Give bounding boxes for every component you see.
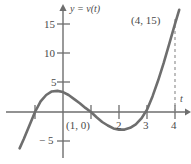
x-axis-label: t [180,94,183,104]
y-tick-label-10: 10 [44,48,55,59]
x-tick-label-2: 2 [116,120,122,131]
y-tick-label-15: 15 [44,19,55,30]
point-label-1-0: (1, 0) [66,120,90,131]
y-tick-label-5: 5 [51,77,57,88]
x-tick-label-3: 3 [143,120,149,131]
point-label-4-15: (4, 15) [131,15,160,26]
velocity-curve [20,10,180,149]
x-axis-arrowhead [185,108,191,115]
velocity-graph-figure: 15 10 5 − 5 2 3 4 y = v(t) t (1, 0) (4, … [0,0,191,164]
y-axis-arrowhead [59,4,66,11]
y-tick-label-minus5: − 5 [39,135,53,146]
plot-canvas [0,0,191,164]
x-tick-label-4: 4 [171,120,177,131]
y-axis-label: y = v(t) [70,4,100,14]
y-axis [59,4,66,158]
